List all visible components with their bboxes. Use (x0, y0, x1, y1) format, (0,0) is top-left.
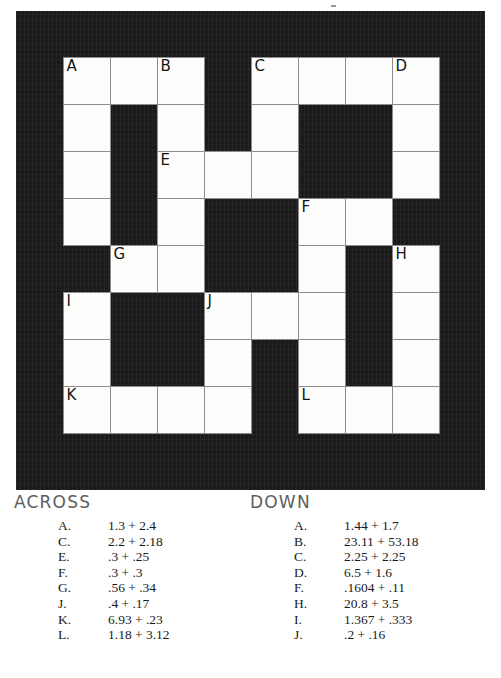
clue-item: F..1604 + .11 (294, 580, 419, 596)
crossword-cell[interactable] (157, 198, 205, 246)
down-heading: DOWN (250, 492, 419, 512)
cell-label-g: G (114, 246, 126, 263)
cell-label-k: K (67, 387, 77, 404)
crossword-cell[interactable] (392, 151, 440, 199)
cell-label-j: J (208, 293, 212, 310)
clue-key: C. (294, 549, 344, 565)
clue-item: J..4 + .17 (58, 596, 170, 612)
crossword-cell-f[interactable]: F (298, 198, 346, 246)
crossword-block (345, 339, 392, 386)
crossword-block (345, 292, 392, 339)
crossword-cell-i[interactable]: I (63, 292, 111, 340)
crossword-cell[interactable] (110, 386, 158, 434)
cell-label-l: L (302, 387, 310, 404)
clue-key: G. (58, 580, 108, 596)
crossword-cell-d[interactable]: D (392, 57, 440, 105)
crossword-cell[interactable] (251, 292, 299, 340)
down-clue-list: A.1.44 + 1.7B.23.11 + 53.18C.2.25 + 2.25… (250, 518, 419, 643)
crossword-block (345, 151, 392, 198)
crossword-cell-j[interactable]: J (204, 292, 252, 340)
scan-artifact-speck (331, 5, 336, 7)
clue-item: E..3 + .25 (58, 549, 170, 565)
clue-item: J..2 + .16 (294, 627, 419, 643)
crossword-cell[interactable] (298, 245, 346, 293)
clue-text: 1.367 + .333 (344, 612, 419, 628)
crossword-cell-a[interactable]: A (63, 57, 111, 105)
crossword-cell[interactable] (298, 292, 346, 340)
crossword-cell[interactable] (345, 386, 393, 434)
clue-item: H.20.8 + 3.5 (294, 596, 419, 612)
clue-key: L. (58, 627, 108, 643)
clue-key: B. (294, 534, 344, 550)
clue-text: .3 + .25 (108, 549, 170, 565)
crossword-block (392, 198, 439, 245)
clue-key: A. (294, 518, 344, 534)
clue-item: F..3 + .3 (58, 565, 170, 581)
cell-label-e: E (161, 152, 170, 169)
crossword-cell[interactable] (63, 151, 111, 199)
clue-key: A. (58, 518, 108, 534)
crossword-block (204, 104, 251, 151)
crossword-cell[interactable] (157, 245, 205, 293)
crossword-cell[interactable] (204, 386, 252, 434)
cell-label-i: I (67, 293, 71, 310)
crossword-cell[interactable] (157, 104, 205, 152)
crossword-cell[interactable] (298, 339, 346, 387)
clue-key: H. (294, 596, 344, 612)
crossword-cell-c[interactable]: C (251, 57, 299, 105)
crossword-block (298, 104, 345, 151)
crossword-cell-g[interactable]: G (110, 245, 158, 293)
crossword-cell[interactable] (392, 292, 440, 340)
crossword-panel: ABCDEFGHIJKL (16, 11, 485, 490)
clue-text: .2 + .16 (344, 627, 419, 643)
crossword-cell-k[interactable]: K (63, 386, 111, 434)
crossword-cell[interactable] (345, 198, 393, 246)
crossword-block (110, 151, 157, 198)
crossword-block (63, 245, 110, 292)
crossword-cell[interactable] (110, 57, 158, 105)
clue-text: 1.44 + 1.7 (344, 518, 419, 534)
crossword-cell[interactable] (392, 104, 440, 152)
clue-item: C.2.2 + 2.18 (58, 534, 170, 550)
clue-key: F. (58, 565, 108, 581)
crossword-cell[interactable] (251, 151, 299, 199)
across-heading: ACROSS (14, 492, 170, 512)
down-clues-column: DOWN A.1.44 + 1.7B.23.11 + 53.18C.2.25 +… (250, 492, 419, 643)
cell-label-f: F (302, 199, 311, 216)
crossword-cell[interactable] (345, 57, 393, 105)
clue-key: D. (294, 565, 344, 581)
clue-item: B.23.11 + 53.18 (294, 534, 419, 550)
crossword-cell[interactable] (392, 339, 440, 387)
clue-text: .1604 + .11 (344, 580, 419, 596)
crossword-grid[interactable]: ABCDEFGHIJKL (63, 57, 439, 433)
clue-text: 6.93 + .23 (108, 612, 170, 628)
clue-key: J. (294, 627, 344, 643)
crossword-cell[interactable] (392, 386, 440, 434)
crossword-block (204, 198, 251, 245)
clue-text: 1.18 + 3.12 (108, 627, 170, 643)
crossword-block (204, 57, 251, 104)
crossword-cell[interactable] (204, 339, 252, 387)
crossword-cell-l[interactable]: L (298, 386, 346, 434)
crossword-cell[interactable] (298, 57, 346, 105)
cell-label-a: A (67, 58, 77, 75)
crossword-block (204, 245, 251, 292)
crossword-cell-h[interactable]: H (392, 245, 440, 293)
crossword-cell[interactable] (157, 386, 205, 434)
crossword-cell[interactable] (251, 104, 299, 152)
clue-text: .56 + .34 (108, 580, 170, 596)
cell-label-d: D (396, 58, 408, 75)
crossword-cell[interactable] (204, 151, 252, 199)
crossword-cell[interactable] (63, 104, 111, 152)
crossword-cell[interactable] (63, 198, 111, 246)
crossword-block (110, 339, 157, 386)
crossword-cell-b[interactable]: B (157, 57, 205, 105)
clue-text: 2.25 + 2.25 (344, 549, 419, 565)
crossword-cell-e[interactable]: E (157, 151, 205, 199)
clue-item: K.6.93 + .23 (58, 612, 170, 628)
crossword-block (251, 245, 298, 292)
clue-item: A.1.44 + 1.7 (294, 518, 419, 534)
clue-item: C.2.25 + 2.25 (294, 549, 419, 565)
cell-label-b: B (161, 58, 171, 75)
crossword-cell[interactable] (63, 339, 111, 387)
